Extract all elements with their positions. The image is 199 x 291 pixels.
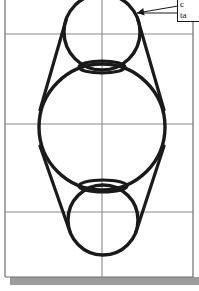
callout-line-2: ta [180,10,199,21]
page-background [0,0,199,291]
annotation-callout: c ta [177,0,199,22]
callout-line-1: c [180,0,199,10]
figure-drawing [0,0,199,291]
figure-canvas: c ta [0,0,199,291]
drop-shadow-bar [10,277,199,285]
